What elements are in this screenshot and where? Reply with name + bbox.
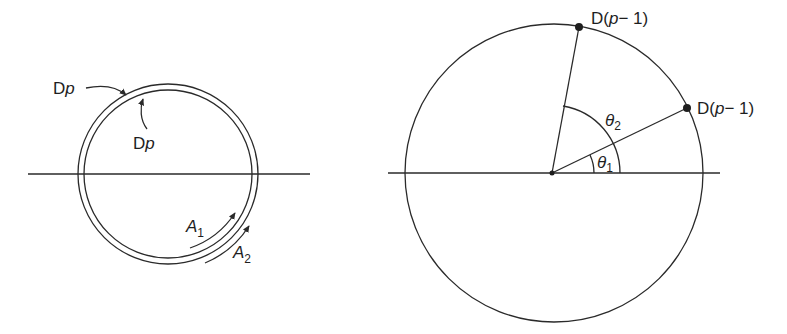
outer-ring-label: Dp — [53, 79, 75, 98]
center-point — [550, 171, 555, 176]
angle-label-theta1: θ1 — [597, 153, 613, 175]
left-panel: Dp Dp A1 A2 — [28, 79, 310, 266]
inner-ring-label: Dp — [133, 134, 155, 153]
point-d-right — [683, 104, 691, 112]
diagram-canvas: Dp Dp A1 A2 D(p− 1) D(p− 1) θ1 θ2 — [0, 0, 787, 334]
radius-to-point-2 — [552, 27, 579, 173]
right-panel: D(p− 1) D(p− 1) θ1 θ2 — [388, 9, 754, 322]
outer-ring-pointer-arrow — [86, 86, 126, 95]
arc-label-a1: A1 — [185, 217, 204, 240]
angle-label-theta2: θ2 — [605, 111, 621, 133]
arc-label-a2: A2 — [232, 243, 251, 266]
angle-arc-theta1 — [590, 155, 594, 173]
point-label-upper: D(p− 1) — [591, 9, 648, 28]
point-label-right: D(p− 1) — [697, 99, 754, 118]
point-d-upper — [575, 23, 583, 31]
inner-ring-pointer-arrow — [141, 99, 147, 129]
